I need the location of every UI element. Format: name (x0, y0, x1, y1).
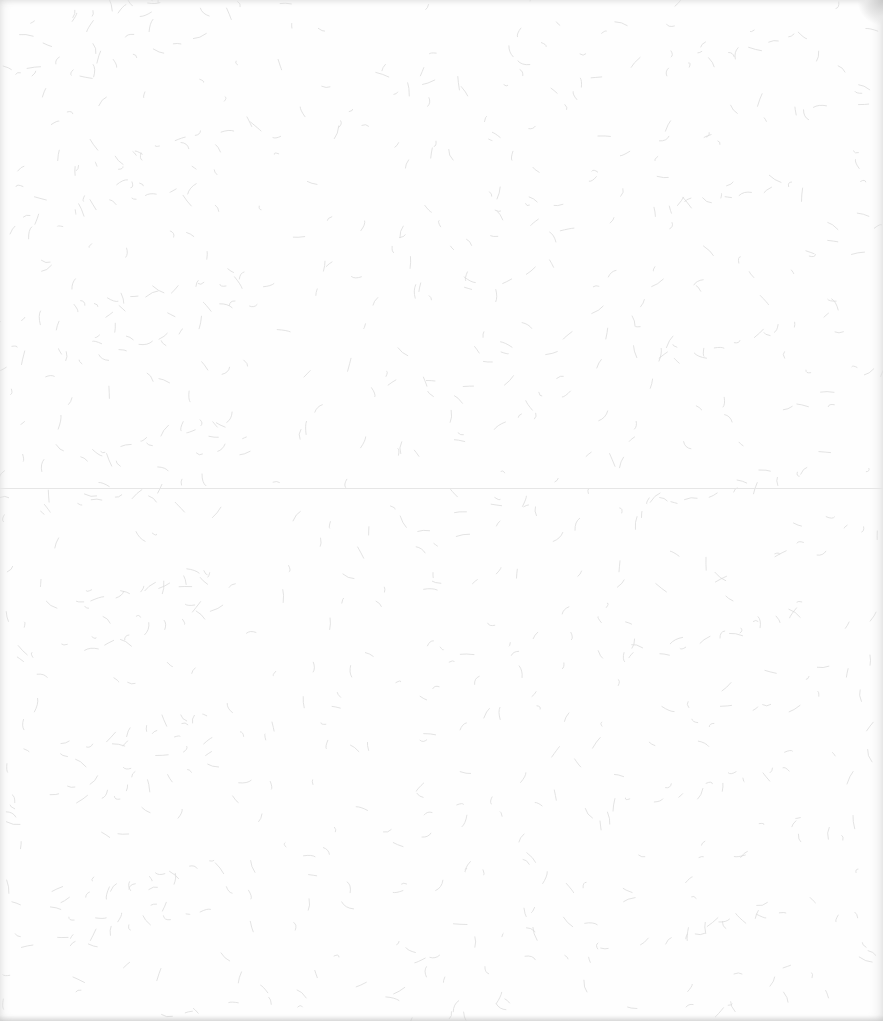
blank-paper-sheet (0, 0, 883, 1021)
paper-fiber-texture (0, 0, 883, 1021)
bottom-edge-shadow (0, 1015, 883, 1021)
curled-corner (857, 0, 883, 26)
fold-line (0, 488, 883, 489)
